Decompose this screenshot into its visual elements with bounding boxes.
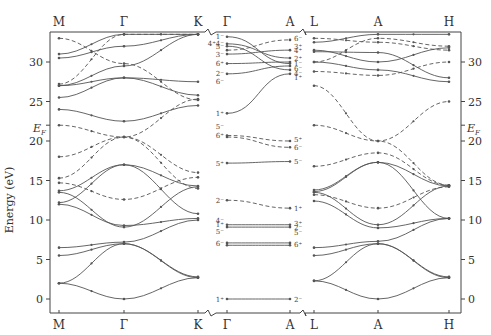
band-point xyxy=(226,73,229,76)
band-point xyxy=(160,162,162,164)
band-point xyxy=(58,37,61,40)
band-point xyxy=(289,298,292,301)
band-line xyxy=(227,200,290,208)
y-tick-label-right: 25 xyxy=(468,96,482,109)
band-point xyxy=(345,49,347,51)
band-line xyxy=(314,48,449,62)
band-point xyxy=(412,33,414,35)
k-point-label-bottom: Γ xyxy=(223,318,231,332)
band-point xyxy=(160,221,162,223)
band-point xyxy=(345,200,347,202)
k-point-label-top: A xyxy=(373,15,383,29)
band-point xyxy=(90,146,92,148)
band-line xyxy=(314,218,449,247)
band-point xyxy=(345,112,347,114)
band-point xyxy=(160,49,162,51)
band-point xyxy=(313,254,316,257)
k-point-label-bottom: A xyxy=(373,318,383,332)
band-line xyxy=(59,220,198,248)
band-point xyxy=(160,259,162,261)
axis-break-icon xyxy=(205,310,216,316)
band-point xyxy=(345,158,347,160)
band-point xyxy=(345,207,347,209)
symmetry-label-gamma: 5⁻ xyxy=(216,228,224,236)
band-point xyxy=(289,140,292,143)
y-tick-label-right: 0 xyxy=(468,293,475,306)
band-point xyxy=(345,51,347,53)
band-point xyxy=(377,74,380,77)
symmetry-label-gamma: 1⁺ xyxy=(216,296,224,304)
band-line xyxy=(59,204,198,225)
band-point xyxy=(58,53,61,56)
band-point xyxy=(412,204,414,206)
band-point xyxy=(160,154,162,156)
band-point xyxy=(226,134,229,137)
band-point xyxy=(226,298,229,301)
band-point xyxy=(412,229,414,231)
band-line xyxy=(314,86,449,186)
band-line xyxy=(59,34,198,84)
band-point xyxy=(160,112,162,114)
band-point xyxy=(377,242,380,245)
band-point xyxy=(345,243,347,245)
band-point xyxy=(197,99,200,102)
band-point xyxy=(448,184,451,187)
band-line xyxy=(59,244,198,284)
band-point xyxy=(90,262,92,264)
symmetry-label-a: 2⁻ xyxy=(294,296,302,304)
band-line xyxy=(314,102,449,142)
band-point xyxy=(345,55,347,57)
band-line xyxy=(227,66,290,74)
band-line xyxy=(59,137,198,178)
band-point xyxy=(289,57,292,60)
k-point-label-top: M xyxy=(53,15,65,29)
band-point xyxy=(123,62,126,65)
band-point xyxy=(412,41,414,43)
band-point xyxy=(226,112,229,115)
band-point xyxy=(58,201,61,204)
symmetry-label-gamma: 6⁺ xyxy=(216,132,224,140)
band-point xyxy=(123,136,126,139)
band-point xyxy=(58,108,61,111)
band-point xyxy=(90,50,92,52)
band-point xyxy=(345,249,347,251)
band-point xyxy=(160,85,162,87)
band-point xyxy=(313,280,316,283)
band-point xyxy=(123,163,126,166)
band-point xyxy=(412,162,414,164)
band-point xyxy=(289,69,292,72)
band-point xyxy=(412,189,414,191)
band-point xyxy=(289,146,292,149)
band-point xyxy=(90,130,92,132)
k-point-label-top: Γ xyxy=(120,15,128,29)
band-point xyxy=(412,54,414,56)
band-point xyxy=(123,77,126,80)
band-point xyxy=(377,61,380,64)
band-point xyxy=(90,58,92,60)
band-point xyxy=(412,45,414,47)
band-point xyxy=(197,33,200,36)
band-point xyxy=(226,45,229,48)
band-point xyxy=(448,61,451,64)
band-line xyxy=(59,165,198,203)
y-tick-label-right: 15 xyxy=(468,175,482,188)
k-point-label-bottom: L xyxy=(310,318,318,332)
band-line xyxy=(59,165,198,214)
band-point xyxy=(377,33,380,36)
band-line xyxy=(227,137,290,147)
band-point xyxy=(377,41,380,44)
band-point xyxy=(412,75,414,77)
y-tick-label-left: 10 xyxy=(29,214,43,227)
band-point xyxy=(226,223,229,226)
band-point xyxy=(58,83,61,86)
band-point xyxy=(90,190,92,192)
band-point xyxy=(197,217,200,220)
band-point xyxy=(412,259,414,261)
band-point xyxy=(226,35,229,38)
axis-break-icon xyxy=(300,310,306,316)
y-tick-label-left: 30 xyxy=(29,56,43,69)
band-point xyxy=(313,84,316,87)
band-line xyxy=(59,38,198,100)
band-point xyxy=(313,193,316,196)
symmetry-label-gamma: 2⁻ xyxy=(216,70,224,78)
